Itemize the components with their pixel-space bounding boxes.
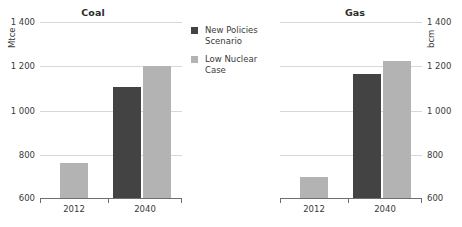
- y-tick-label-800: 800: [19, 151, 35, 160]
- x-tick-mark-start-coal: [40, 199, 41, 203]
- legend-item-new-policies: New Policies Scenario: [191, 25, 283, 46]
- figure-root: Coal Mtce 1 400 1 200 1 000 800 600: [0, 0, 462, 227]
- y-tick-label-1400: 1 400: [11, 18, 35, 27]
- bar-coal-2040-new-policies: [113, 87, 141, 198]
- legend-label-low-nuclear: Low Nuclear Case: [205, 54, 283, 75]
- y-tick-label-600: 600: [19, 194, 35, 203]
- chart-title-gas: Gas: [262, 7, 448, 18]
- y-tick-label-1000: 1 000: [11, 107, 35, 116]
- x-tick-mark-mid-gas: [348, 199, 349, 203]
- gridline-1400: [40, 22, 182, 23]
- axis-baseline-coal: [40, 198, 182, 199]
- bar-gas-2012-low-nuclear: [300, 177, 328, 198]
- bar-coal-2012-low-nuclear: [60, 163, 88, 198]
- chart-panel-gas: Gas bcm 1 400 1 200 1 000 800 600 2012 2…: [276, 0, 462, 227]
- x-axis-label-coal-2012: 2012: [40, 205, 108, 214]
- y-tick-label-1400: 1 400: [427, 18, 451, 27]
- y-tick-label-1200: 1 200: [11, 62, 35, 71]
- x-tick-mark-start-gas: [280, 199, 281, 203]
- legend-swatch-icon-low-nuclear: [191, 56, 198, 63]
- x-axis-label-gas-2040: 2040: [348, 205, 422, 214]
- x-tick-mark-end-coal: [181, 199, 182, 203]
- bar-gas-2040-low-nuclear: [383, 61, 411, 198]
- y-tick-label-800: 800: [427, 151, 443, 160]
- chart-panel-coal: Coal Mtce 1 400 1 200 1 000 800 600: [0, 0, 186, 227]
- gridline-1400: [280, 22, 422, 23]
- x-tick-mark-end-gas: [421, 199, 422, 203]
- plot-area-coal: 1 400 1 200 1 000 800 600: [40, 22, 182, 199]
- bar-coal-2040-low-nuclear: [143, 66, 171, 198]
- x-axis-label-gas-2012: 2012: [280, 205, 348, 214]
- legend-item-low-nuclear: Low Nuclear Case: [191, 54, 283, 75]
- y-tick-label-600: 600: [427, 194, 443, 203]
- y-tick-label-1200: 1 200: [427, 62, 451, 71]
- legend-label-new-policies: New Policies Scenario: [205, 25, 283, 46]
- x-tick-mark-mid-coal: [108, 199, 109, 203]
- bar-gas-2040-new-policies: [353, 74, 381, 198]
- y-tick-label-1000: 1 000: [427, 107, 451, 116]
- y-axis-unit-coal: Mtce: [8, 27, 17, 48]
- y-axis-unit-gas: bcm: [427, 30, 436, 48]
- x-axis-label-coal-2040: 2040: [108, 205, 182, 214]
- chart-legend: New Policies Scenario Low Nuclear Case: [191, 25, 283, 83]
- plot-area-gas: 1 400 1 200 1 000 800 600: [280, 22, 422, 199]
- legend-swatch-icon-new-policies: [191, 27, 198, 34]
- axis-baseline-gas: [280, 198, 422, 199]
